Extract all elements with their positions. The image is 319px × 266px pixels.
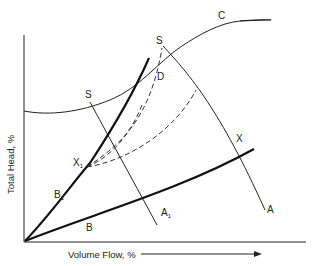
arrow-right-icon [254,251,262,257]
label-a: A [267,204,274,215]
y-axis-label: Total Head, % [5,134,16,194]
label-a1: A1 [161,207,172,219]
label-b: B [86,222,93,233]
label-b1: B1 [54,189,65,201]
speed-line-a1 [90,102,157,225]
label-s-top: S [156,35,163,46]
label-d: D [157,71,164,82]
label-s-left: S [85,89,92,100]
label-c: C [218,10,225,21]
x-axis-label: Volume Flow, % [68,249,136,260]
compressor-characteristic-diagram: C S S D X1 X B1 B A1 A Volume Flow, % To… [0,0,319,266]
label-x: X [236,133,243,144]
dashed-curve-mid [87,105,142,167]
label-x1: X1 [73,157,84,169]
system-curve-b1 [25,58,149,241]
